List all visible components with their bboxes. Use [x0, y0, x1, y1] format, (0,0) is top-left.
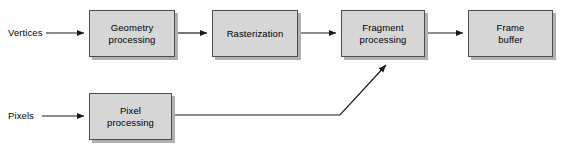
node-rasterization: Rasterization — [212, 10, 298, 57]
edge-pixelprocessing-to-fragment — [173, 65, 386, 115]
node-frame-buffer-label: Frame buffer — [497, 22, 525, 46]
node-fragment-processing-label: Fragment processing — [360, 22, 407, 46]
node-pixel-processing: Pixel processing — [89, 93, 172, 140]
node-rasterization-label: Rasterization — [227, 28, 284, 40]
pipeline-diagram: Vertices Pixels Geometry processing Rast… — [0, 0, 565, 151]
node-geometry-processing-label: Geometry processing — [109, 22, 156, 46]
node-fragment-processing: Fragment processing — [341, 10, 425, 57]
input-label-vertices: Vertices — [8, 27, 43, 39]
input-label-pixels: Pixels — [8, 110, 34, 122]
node-pixel-processing-label: Pixel processing — [107, 105, 154, 129]
node-geometry-processing: Geometry processing — [89, 10, 175, 57]
node-frame-buffer: Frame buffer — [468, 10, 553, 57]
